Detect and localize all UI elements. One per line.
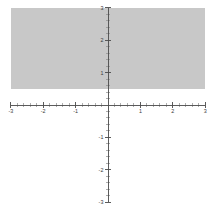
- x-axis-tick-label: 2: [171, 108, 174, 114]
- plot-canvas: -3-2-1123321-1-2-3: [0, 0, 213, 214]
- x-axis-tick-label: 3: [204, 108, 207, 114]
- y-axis-tick-label: 3: [100, 5, 103, 11]
- x-axis-tick-label: -2: [41, 108, 46, 114]
- y-axis-tick-label: -2: [99, 167, 104, 173]
- x-axis-tick-label: -3: [8, 108, 13, 114]
- y-axis-tick-label: 1: [100, 70, 103, 76]
- y-axis-tick-label: -1: [99, 134, 104, 140]
- x-axis-tick-label: 1: [139, 108, 142, 114]
- y-axis-tick-label: 2: [100, 37, 103, 43]
- plot-surface: -3-2-1123321-1-2-3: [0, 0, 213, 214]
- coordinate-plane-figure: -3-2-1123321-1-2-3: [0, 0, 213, 214]
- y-axis-tick-label: -3: [99, 199, 104, 205]
- x-axis-tick-label: -1: [73, 108, 78, 114]
